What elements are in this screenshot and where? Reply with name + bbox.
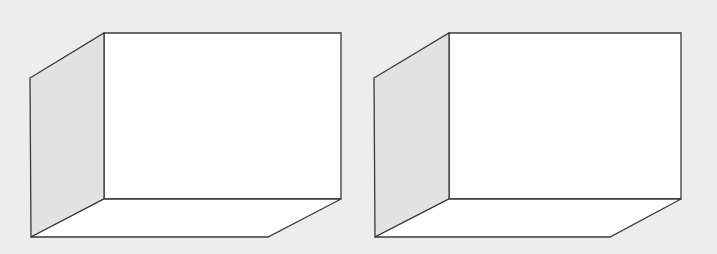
- diagram-svg: [0, 0, 717, 254]
- open-boxes-group: [30, 33, 681, 237]
- back-face: [449, 33, 681, 199]
- back-face: [104, 33, 341, 199]
- box-right: [374, 33, 681, 237]
- diagram-canvas: [0, 0, 717, 254]
- box-left: [30, 33, 341, 237]
